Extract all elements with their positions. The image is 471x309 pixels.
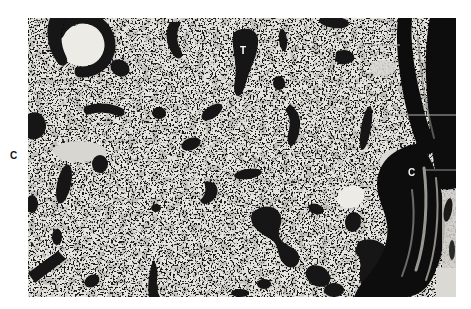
label-C-left-margin: C: [10, 151, 17, 161]
label-T: T: [240, 46, 246, 56]
label-C-capsule: C: [408, 168, 415, 178]
figure-page: T C C: [0, 0, 471, 309]
micrograph-image: [28, 18, 456, 297]
micrograph-frame: [28, 18, 456, 297]
